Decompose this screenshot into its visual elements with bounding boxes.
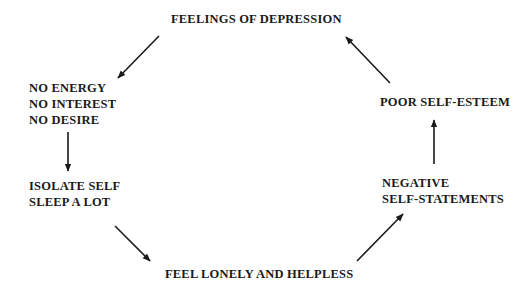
node-label: NEGATIVE xyxy=(382,175,504,191)
arrow-esteem-to-depression xyxy=(346,37,390,83)
node-feel-lonely: FEEL LONELY AND HELPLESS xyxy=(165,266,353,282)
node-feelings-of-depression: FEELINGS OF DEPRESSION xyxy=(171,11,342,27)
node-label: NO ENERGY xyxy=(29,80,116,96)
node-label: FEEL LONELY AND HELPLESS xyxy=(165,266,353,282)
node-label: NO DESIRE xyxy=(29,112,116,128)
node-negative-self-statements: NEGATIVE SELF-STATEMENTS xyxy=(382,175,504,207)
arrow-isolate-to-lonely xyxy=(115,226,150,261)
node-no-energy: NO ENERGY NO INTEREST NO DESIRE xyxy=(29,80,116,128)
arrow-depression-to-no-energy xyxy=(118,36,159,78)
node-label: SLEEP A LOT xyxy=(29,194,120,210)
node-label: SELF-STATEMENTS xyxy=(382,191,504,207)
node-label: NO INTEREST xyxy=(29,96,116,112)
arrow-lonely-to-negative xyxy=(357,214,403,261)
node-label: FEELINGS OF DEPRESSION xyxy=(171,11,342,27)
node-label: POOR SELF-ESTEEM xyxy=(380,94,510,110)
cycle-arrows xyxy=(0,0,527,290)
node-isolate-self: ISOLATE SELF SLEEP A LOT xyxy=(29,178,120,210)
node-label: ISOLATE SELF xyxy=(29,178,120,194)
node-poor-self-esteem: POOR SELF-ESTEEM xyxy=(380,94,510,110)
